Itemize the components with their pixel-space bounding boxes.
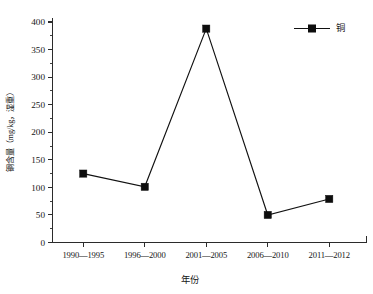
chart-canvas: 050100150200250300350400 1990—19951996—2… xyxy=(0,0,373,294)
x-tick-label: 2011—2012 xyxy=(309,250,350,260)
y-tick-label: 0 xyxy=(40,238,45,248)
y-axis-ticks xyxy=(48,22,53,243)
legend-marker-sample xyxy=(308,25,316,33)
data-point-marker xyxy=(264,211,271,218)
y-axis-tick-labels: 050100150200250300350400 xyxy=(31,17,45,248)
y-tick-label: 350 xyxy=(31,45,45,55)
y-tick-label: 300 xyxy=(31,72,45,82)
y-tick-label: 200 xyxy=(31,127,45,137)
y-axis-title: 铜含量（mg/kg，湿重） xyxy=(5,88,15,173)
y-tick-label: 400 xyxy=(31,17,45,27)
series-markers-copper xyxy=(80,25,333,219)
x-tick-label: 2006—2010 xyxy=(247,250,289,260)
x-axis-ticks xyxy=(83,243,329,248)
y-tick-label: 50 xyxy=(36,210,46,220)
legend-label-copper: 铜 xyxy=(336,22,345,33)
y-tick-label: 100 xyxy=(31,183,45,193)
x-tick-label: 2001—2005 xyxy=(185,250,227,260)
x-tick-label: 1990—1995 xyxy=(62,250,104,260)
x-axis-title: 年份 xyxy=(181,274,200,285)
data-point-marker xyxy=(141,183,148,190)
y-tick-label: 150 xyxy=(31,155,45,165)
y-tick-label: 250 xyxy=(31,100,45,110)
chart-legend: 铜 xyxy=(294,22,345,33)
data-point-marker xyxy=(203,25,210,32)
chart-axes xyxy=(53,18,368,243)
data-point-marker xyxy=(80,170,87,177)
series-line-copper xyxy=(83,29,329,215)
line-chart: 050100150200250300350400 1990—19951996—2… xyxy=(0,0,373,294)
data-point-marker xyxy=(326,195,333,202)
x-tick-label: 1996—2000 xyxy=(124,250,166,260)
data-series-copper xyxy=(80,25,333,219)
x-axis-tick-labels: 1990—19951996—20002001—20052006—20102011… xyxy=(62,250,349,260)
